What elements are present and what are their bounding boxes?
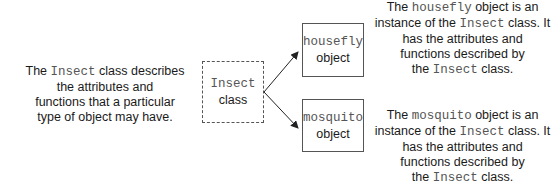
housefly-object-box: housefly object xyxy=(302,23,364,77)
mosquito-desc-line-3: has the attributes and xyxy=(368,140,557,155)
housefly-desc-line-5: the Insect class. xyxy=(368,62,557,78)
housefly-object-label: object xyxy=(316,50,349,66)
housefly-object-name: housefly xyxy=(303,34,363,50)
mosquito-desc-line-1: The mosquito object is an xyxy=(368,108,557,124)
housefly-desc-line-3: has the attributes and xyxy=(368,32,557,47)
housefly-description: The housefly object is an instance of th… xyxy=(368,0,557,78)
mosquito-object-box: mosquito object xyxy=(302,99,364,152)
mosquito-desc-line-5: the Insect class. xyxy=(368,170,557,186)
arrow-to-housefly xyxy=(264,52,298,92)
housefly-desc-line-4: functions described by xyxy=(368,47,557,62)
mosquito-description: The mosquito object is an instance of th… xyxy=(368,108,557,186)
mosquito-desc-line-2: instance of the Insect class. It xyxy=(368,124,557,140)
arrow-to-mosquito xyxy=(264,92,298,128)
mosquito-object-name: mosquito xyxy=(303,110,363,126)
mosquito-desc-line-4: functions described by xyxy=(368,155,557,170)
mosquito-object-label: object xyxy=(316,126,349,142)
housefly-desc-line-1: The housefly object is an xyxy=(368,0,557,16)
housefly-desc-line-2: instance of the Insect class. It xyxy=(368,16,557,32)
